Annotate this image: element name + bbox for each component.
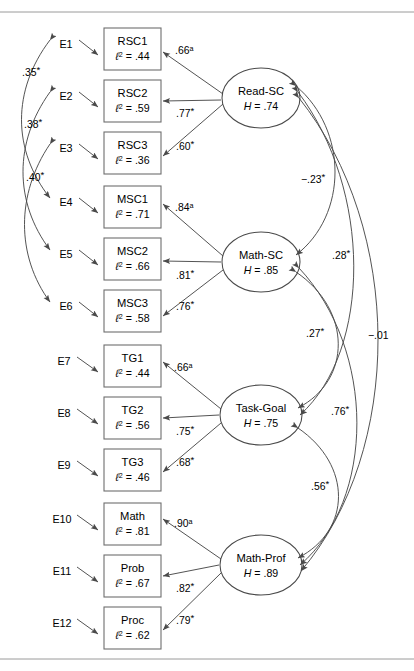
indicator-name-msc1: MSC1 (117, 193, 148, 205)
error-corr-label-e2-e5: .38* (24, 116, 42, 130)
error-arrow-e6 (79, 302, 98, 317)
error-arrow-e12 (77, 619, 98, 634)
error-label-e1: E1 (59, 38, 72, 50)
factor-corr-label-read-sc-task-goal: .27* (306, 325, 324, 339)
factor-corr-task-goal-math-prof (298, 428, 339, 558)
error-label-e11: E11 (53, 565, 71, 577)
error-arrow-e1 (79, 40, 98, 55)
factor-h-math-prof: H = .89 (244, 567, 279, 579)
factor-ellipse-task-goal (220, 385, 302, 445)
factor-corr-label-math-sc-math-prof: .76* (331, 403, 349, 417)
indicator-name-msc2: MSC2 (117, 245, 148, 257)
loading-arrow-read-sc-rsc1 (163, 52, 223, 94)
error-corr-e2-e5 (23, 92, 50, 250)
error-arrow-e8 (77, 409, 98, 424)
factor-name-math-prof: Math-Prof (236, 552, 286, 564)
error-label-e3: E3 (59, 142, 72, 154)
error-label-e4: E4 (59, 196, 72, 208)
error-arrow-e7 (77, 357, 98, 372)
factor-corr-label-math-sc-task-goal: .28* (332, 247, 350, 261)
loading-label-rsc1: .66a (175, 44, 193, 57)
factor-correlation-curves: −.23* .28* .27* −.01 .76* .56* (296, 86, 389, 571)
loading-arrow-task-goal-tg2 (163, 415, 219, 418)
factor-h-read-sc: H = .74 (244, 100, 279, 112)
diagram-canvas: RSC1 ℓ2 = .44 RSC2 ℓ2 = .59 RSC3 ℓ2 = .3… (0, 0, 414, 671)
factor-ellipse-math-prof (220, 535, 302, 595)
indicator-name-tg2: TG2 (122, 404, 144, 416)
factor-ellipse-math-sc (222, 232, 300, 292)
loading-label-rsc3: .60* (176, 138, 194, 152)
indicator-name-rsc2: RSC2 (118, 87, 148, 99)
factor-ellipse-read-sc (222, 68, 300, 128)
error-correlation-curves: .35* .38* .40* (22, 40, 51, 302)
error-arrow-e3 (79, 144, 98, 159)
factor-corr-read-sc-math-sc (296, 86, 335, 255)
factor-name-read-sc: Read-SC (238, 85, 284, 97)
loading-label-math: .90a (174, 517, 192, 530)
factor-name-task-goal: Task-Goal (236, 402, 286, 414)
loading-arrow-math-sc-msc2 (163, 261, 221, 262)
loading-arrow-math-sc-msc1 (163, 204, 223, 256)
indicator-name-prob: Prob (121, 562, 145, 574)
indicator-name-rsc1: RSC1 (118, 35, 148, 47)
factor-corr-math-sc-task-goal (296, 272, 338, 408)
sem-path-diagram-figure: RSC1 ℓ2 = .44 RSC2 ℓ2 = .59 RSC3 ℓ2 = .3… (0, 0, 414, 671)
error-corr-label-e1-e4: .35* (22, 64, 40, 78)
loading-arrow-math-prof-prob (163, 565, 219, 576)
error-arrow-e9 (77, 461, 98, 476)
error-arrow-e11 (77, 567, 98, 582)
factor-name-math-sc: Math-SC (239, 249, 283, 261)
loading-arrow-read-sc-rsc2 (163, 100, 221, 101)
factor-h-math-sc: H = .85 (244, 264, 279, 276)
indicator-labels: RSC1 ℓ2 = .44 RSC2 ℓ2 = .59 RSC3 ℓ2 = .3… (114, 35, 149, 641)
loading-label-tg2: .75* (176, 423, 194, 437)
indicator-name-proc: Proc (121, 614, 144, 626)
error-label-e9: E9 (57, 459, 70, 471)
factor-corr-label-task-goal-math-prof: .56* (311, 478, 329, 492)
loading-label-msc3: .76* (176, 298, 194, 312)
error-arrow-e10 (77, 515, 98, 530)
loading-label-msc1: .84a (175, 201, 193, 214)
error-label-e8: E8 (57, 407, 70, 419)
error-corr-e3-e6 (25, 144, 51, 302)
indicator-boxes (104, 28, 161, 649)
indicator-name-rsc3: RSC3 (118, 139, 148, 151)
factor-corr-label-read-sc-math-sc: −.23* (301, 171, 326, 185)
indicator-name-math: Math (120, 510, 145, 522)
loading-label-tg3: .68* (176, 454, 194, 468)
indicator-name-msc3: MSC3 (117, 297, 148, 309)
error-arrow-e5 (79, 250, 98, 265)
loading-label-msc2: .81* (176, 267, 194, 281)
error-corr-label-e3-e6: .40* (26, 169, 44, 183)
error-label-e7: E7 (57, 355, 70, 367)
loading-label-rsc2: .77* (176, 105, 194, 119)
error-label-e2: E2 (59, 90, 72, 102)
error-terms: E1 E2 E3 E4 E5 E6 E7 E8 E9 E10 E11 E12 (52, 38, 72, 629)
factor-h-task-goal: H = .75 (244, 417, 279, 429)
error-arrow-e4 (79, 198, 98, 213)
error-label-e10: E10 (52, 513, 71, 525)
indicator-name-tg1: TG1 (122, 352, 144, 364)
factor-corr-math-sc-math-prof (299, 268, 357, 565)
error-label-e12: E12 (52, 617, 71, 629)
loading-label-prob: .82* (176, 580, 194, 594)
error-label-e5: E5 (59, 248, 72, 260)
loading-label-proc: .79* (176, 612, 194, 626)
factor-corr-label-read-sc-math-prof: −.01 (368, 330, 389, 341)
indicator-name-tg3: TG3 (122, 456, 144, 468)
error-to-indicator-arrows (77, 40, 98, 634)
error-label-e6: E6 (59, 300, 72, 312)
factor-ellipses: Read-SC H = .74 Math-SC H = .85 Task-Goa… (220, 68, 302, 595)
loading-label-tg1: .66a (174, 361, 192, 374)
error-arrow-e2 (79, 92, 98, 107)
